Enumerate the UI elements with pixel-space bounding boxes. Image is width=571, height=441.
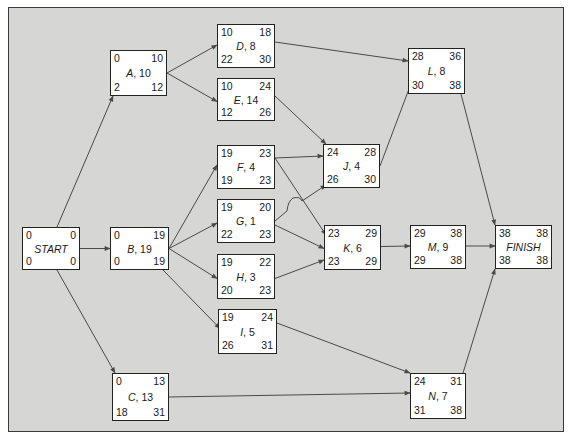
- edge-a-to-d: [167, 45, 217, 73]
- latest-start: 20: [221, 285, 233, 296]
- latest-start: 12: [221, 107, 233, 118]
- node-c: 0 13 C, 13 18 31: [112, 373, 169, 421]
- edge-g-to-k: [275, 225, 324, 249]
- latest-start: 22: [221, 229, 233, 240]
- edge-e-to-j: [275, 96, 326, 144]
- earliest-start: 0: [114, 53, 120, 64]
- latest-start: 0: [114, 256, 120, 267]
- node-label: FINISH: [496, 241, 551, 253]
- earliest-finish: 23: [259, 148, 271, 159]
- node-label: B, 19: [111, 243, 168, 255]
- latest-finish: 31: [261, 340, 273, 351]
- node-label: D, 8: [218, 40, 274, 52]
- node-b: 0 19 B, 19 0 19: [110, 227, 169, 270]
- node-label: F, 4: [218, 161, 274, 173]
- latest-start: 26: [222, 340, 234, 351]
- latest-finish: 38: [450, 405, 462, 416]
- edge-g-to-j: [275, 185, 326, 221]
- latest-start: 38: [499, 255, 511, 266]
- node-i: 19 24 I, 5 26 31: [218, 309, 277, 354]
- edge-l-to-finish: [461, 94, 495, 225]
- node-label: G, 1: [218, 215, 274, 227]
- latest-finish: 38: [450, 255, 462, 266]
- node-label: M, 9: [411, 241, 465, 253]
- earliest-start: 0: [114, 230, 120, 241]
- earliest-start: 23: [328, 228, 340, 239]
- earliest-start: 10: [221, 81, 233, 92]
- node-label: N, 7: [411, 390, 465, 402]
- latest-finish: 0: [70, 256, 76, 267]
- node-e: 10 24 E, 14 12 26: [217, 78, 275, 121]
- node-label: START: [23, 243, 79, 255]
- latest-finish: 30: [364, 174, 376, 185]
- edge-b-to-i: [163, 270, 220, 329]
- latest-start: 2: [114, 82, 120, 93]
- node-j: 24 28 J, 4 26 30: [323, 144, 380, 188]
- earliest-finish: 13: [153, 376, 165, 387]
- node-a: 0 10 A, 10 2 12: [110, 50, 167, 96]
- earliest-finish: 38: [450, 228, 462, 239]
- node-h: 19 22 H, 3 20 23: [217, 254, 275, 299]
- latest-start: 22: [221, 54, 233, 65]
- earliest-finish: 20: [259, 202, 271, 213]
- earliest-start: 0: [116, 376, 122, 387]
- latest-finish: 31: [153, 407, 165, 418]
- earliest-finish: 38: [536, 228, 548, 239]
- node-finish: 38 38 FINISH 38 38: [495, 225, 552, 269]
- earliest-finish: 24: [259, 81, 271, 92]
- node-label: E, 14: [218, 94, 274, 106]
- node-d: 10 18 D, 8 22 30: [217, 24, 275, 68]
- node-label: A, 10: [111, 67, 166, 79]
- edge-d-to-l: [275, 42, 408, 61]
- latest-start: 26: [327, 174, 339, 185]
- latest-start: 18: [116, 407, 128, 418]
- latest-finish: 19: [153, 256, 165, 267]
- latest-finish: 29: [365, 256, 377, 267]
- node-g: 19 20 G, 1 22 23: [217, 199, 275, 243]
- node-k: 23 29 K, 6 23 29: [324, 225, 381, 270]
- latest-finish: 23: [259, 175, 271, 186]
- node-label: C, 13: [113, 391, 168, 403]
- node-n: 24 31 N, 7 31 38: [410, 373, 466, 419]
- earliest-start: 38: [499, 228, 511, 239]
- latest-start: 19: [221, 175, 233, 186]
- latest-finish: 23: [259, 285, 271, 296]
- earliest-start: 28: [412, 51, 424, 62]
- earliest-finish: 29: [365, 228, 377, 239]
- earliest-start: 24: [414, 376, 426, 387]
- earliest-finish: 10: [151, 53, 163, 64]
- earliest-start: 10: [221, 27, 233, 38]
- latest-start: 29: [414, 255, 426, 266]
- earliest-start: 29: [414, 228, 426, 239]
- latest-finish: 23: [259, 229, 271, 240]
- edge-n-to-finish: [463, 269, 495, 373]
- node-m: 29 38 M, 9 29 38: [410, 225, 466, 269]
- edge-i-to-n: [277, 323, 410, 373]
- latest-finish: 38: [449, 80, 461, 91]
- edge-b-to-h: [169, 249, 217, 279]
- node-label: L, 8: [409, 65, 464, 77]
- node-label: I, 5: [219, 326, 276, 338]
- node-label: H, 3: [218, 271, 274, 283]
- latest-finish: 12: [151, 82, 163, 93]
- edge-f-to-j: [275, 156, 323, 158]
- node-start: 0 0 START 0 0: [22, 227, 80, 270]
- node-label: J, 4: [324, 160, 379, 172]
- latest-finish: 38: [536, 255, 548, 266]
- earliest-start: 19: [221, 148, 233, 159]
- earliest-finish: 18: [259, 27, 271, 38]
- latest-start: 31: [414, 405, 426, 416]
- earliest-finish: 31: [450, 376, 462, 387]
- edge-k-to-m: [381, 246, 410, 247]
- earliest-finish: 22: [259, 257, 271, 268]
- earliest-finish: 0: [70, 230, 76, 241]
- earliest-finish: 36: [449, 51, 461, 62]
- node-label: K, 6: [325, 242, 380, 254]
- edge-start-to-c: [57, 270, 115, 373]
- node-l: 28 36 L, 8 30 38: [408, 48, 465, 94]
- latest-start: 30: [412, 80, 424, 91]
- edge-start-to-a: [57, 96, 113, 227]
- earliest-start: 0: [26, 230, 32, 241]
- edge-c-to-n: [169, 393, 410, 397]
- earliest-start: 24: [327, 147, 339, 158]
